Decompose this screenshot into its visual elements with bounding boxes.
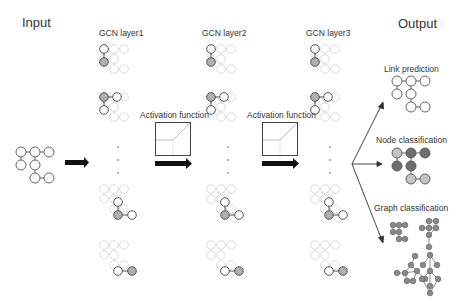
- gcn-layer1-label: GCN layer1: [99, 29, 143, 38]
- gcn-diagram: [0, 0, 458, 301]
- node-classification-label: Node classification: [376, 136, 447, 145]
- activation-function-box-1: [155, 123, 192, 170]
- link-prediction-graph: [392, 76, 430, 112]
- activation-function-label-2: Activation function: [247, 111, 316, 120]
- gcn-layer1-column: [100, 45, 137, 276]
- activation-function-box-2: [262, 123, 299, 170]
- graph-classification-graphs: [390, 218, 441, 296]
- gcn-layer2-label: GCN layer2: [202, 29, 246, 38]
- activation-function-label-1: Activation function: [140, 111, 209, 120]
- input-arrow: [65, 157, 89, 168]
- output-fan-arrows: [352, 102, 384, 243]
- input-label: Input: [22, 16, 51, 29]
- output-label: Output: [398, 17, 437, 30]
- link-prediction-label: Link prediction: [384, 65, 439, 74]
- gcn-layer3-label: GCN layer3: [306, 29, 350, 38]
- input-graph: [16, 147, 54, 183]
- graph-classification-label: Graph classification: [374, 204, 448, 213]
- gcn-layer2-column: [207, 45, 244, 276]
- gcn-layer3-column: [311, 45, 348, 276]
- node-classification-graph: [392, 148, 430, 184]
